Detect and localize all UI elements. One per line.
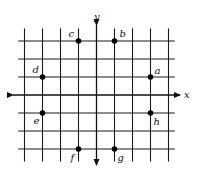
point-label-e: e	[34, 115, 40, 126]
point-g	[112, 146, 118, 152]
axes: x y	[13, 11, 190, 165]
point-label-h: h	[154, 116, 160, 127]
point-c	[76, 38, 82, 44]
point-f	[76, 146, 82, 152]
point-label-f: f	[70, 152, 77, 163]
point-label-g: g	[118, 152, 124, 163]
point-label-b: b	[120, 28, 126, 39]
point-e	[40, 110, 46, 116]
point-a	[148, 74, 154, 80]
x-axis-label: x	[184, 89, 190, 100]
y-axis-label: y	[93, 11, 100, 22]
point-b	[112, 38, 118, 44]
point-label-c: c	[69, 28, 75, 39]
point-label-a: a	[155, 65, 161, 76]
coordinate-grid-diagram: x y abcdefgh	[0, 0, 201, 175]
point-h	[148, 110, 154, 116]
point-d	[40, 74, 46, 80]
point-label-d: d	[33, 64, 39, 75]
